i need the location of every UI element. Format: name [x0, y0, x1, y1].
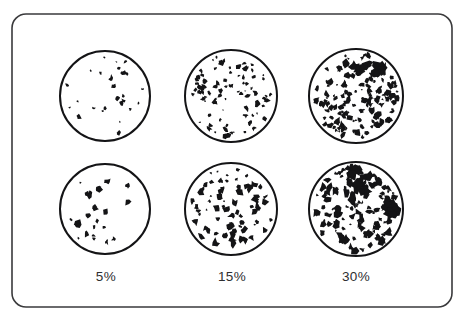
coverage-circle	[185, 163, 277, 255]
figure-root: 5% 15% 30%	[0, 0, 463, 323]
speckle	[347, 115, 354, 120]
coverage-label-5: 5%	[60, 269, 152, 284]
coverage-circle	[309, 49, 403, 143]
speckle	[390, 76, 394, 80]
coverage-circle	[309, 160, 403, 256]
coverage-label-15: 15%	[186, 269, 278, 284]
coverage-label-30: 30%	[310, 269, 402, 284]
speckle	[355, 90, 357, 93]
coverage-circle	[60, 164, 150, 254]
speckle	[217, 194, 223, 200]
coverage-circle	[60, 51, 150, 141]
coverage-circle	[185, 50, 277, 142]
